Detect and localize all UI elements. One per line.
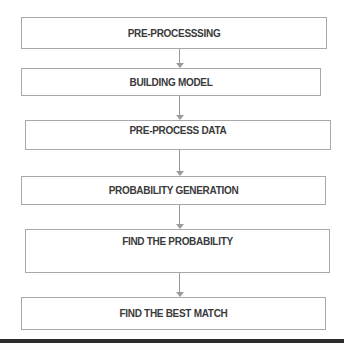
step-find-the-probability: FIND THE PROBABILITY <box>25 229 330 273</box>
arrow-connector <box>175 150 185 176</box>
arrow-connector <box>175 96 185 120</box>
bottom-divider <box>0 339 344 343</box>
step-building-model: BUILDING MODEL <box>21 68 321 96</box>
step-label: PRE-PROCESS DATA <box>129 125 226 136</box>
step-pre-processing: PRE-PROCESSSING <box>21 17 327 49</box>
step-label: BUILDING MODEL <box>129 77 212 88</box>
step-label: FIND THE PROBABILITY <box>122 236 233 247</box>
arrow-connector <box>175 205 185 229</box>
arrow-connector <box>175 49 185 68</box>
step-label: PRE-PROCESSSING <box>128 28 221 39</box>
step-label: PROBABILITY GENERATION <box>109 185 239 196</box>
step-label: FIND THE BEST MATCH <box>120 308 228 319</box>
step-find-the-best-match: FIND THE BEST MATCH <box>21 297 326 330</box>
arrow-connector <box>175 273 185 297</box>
step-probability-generation: PROBABILITY GENERATION <box>21 176 326 205</box>
step-pre-process-data: PRE-PROCESS DATA <box>25 120 331 150</box>
